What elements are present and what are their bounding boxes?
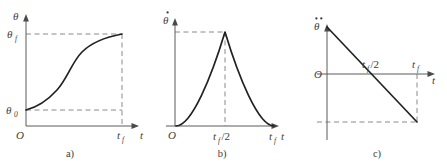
xtick-t-f-b: t f: [269, 130, 277, 145]
xtick-t-f-half-c: t f /2: [362, 58, 379, 73]
panel-a-svg: θ θ f θ 0 O t f t a): [0, 0, 150, 165]
x-axis-arrow-a: [132, 123, 140, 129]
panel-a-position-plot: θ θ f θ 0 O t f t a): [0, 0, 150, 165]
y-axis-arrow-b: [172, 18, 178, 26]
x-axis-label-b: t: [281, 130, 285, 142]
y-axis-label-b: θ: [163, 11, 169, 26]
y-axis-arrow-a: [23, 14, 29, 22]
accel-dot-accent-right-icon: [320, 17, 322, 19]
curve-theta-position: [26, 34, 122, 110]
xtick-t-f-symbol-a: t: [117, 129, 121, 141]
y-axis-label-c: θ: [314, 17, 322, 32]
y-axis-label-b-symbol: θ: [163, 14, 169, 26]
figure-root: θ θ f θ 0 O t f t a): [0, 0, 447, 165]
panel-c-svg: θ O t f /2 t f t c): [295, 0, 447, 165]
xtick-t-f-subscript-a: f: [122, 135, 125, 144]
caption-b: b): [218, 148, 227, 160]
ytick-theta-f: θ f: [7, 28, 18, 43]
caption-c: c): [373, 148, 382, 160]
x-axis-label-a: t: [140, 129, 144, 141]
xtick-t-f-subscript-b: f: [274, 136, 277, 145]
xtick-t-f-half-suffix-b: /2: [222, 130, 231, 142]
origin-label-b: O: [168, 129, 176, 141]
xtick-t-f-half-symbol-b: t: [213, 130, 217, 142]
x-axis-label-c: t: [432, 74, 436, 86]
xtick-t-f-symbol-b: t: [269, 130, 273, 142]
accel-dot-accent-left-icon: [315, 17, 317, 19]
panel-b-velocity-plot: θ O t f /2 t f t b): [150, 0, 295, 165]
ytick-theta-0-symbol: θ: [6, 104, 12, 116]
ytick-theta-f-symbol: θ: [7, 28, 13, 40]
xtick-t-f-a: t f: [117, 129, 125, 144]
xtick-t-f-subscript-c: f: [417, 64, 420, 73]
ytick-theta-0: θ 0: [6, 104, 18, 119]
xtick-t-f-c: t f: [412, 58, 420, 73]
xtick-t-f-symbol-c: t: [412, 58, 416, 70]
xtick-t-f-half-b: t f /2: [213, 130, 230, 145]
panel-c-acceleration-plot: θ O t f /2 t f t c): [295, 0, 447, 165]
ytick-theta-0-subscript: 0: [14, 110, 18, 119]
y-axis-label-c-symbol: θ: [314, 20, 320, 32]
y-axis-label-a: θ: [13, 10, 19, 22]
caption-a: a): [66, 148, 75, 160]
origin-label-a: O: [16, 129, 24, 141]
origin-label-c: O: [314, 68, 322, 80]
xtick-t-f-half-suffix-c: /2: [371, 58, 380, 70]
panel-b-svg: θ O t f /2 t f t b): [150, 0, 295, 165]
ytick-theta-f-subscript: f: [15, 34, 18, 43]
velocity-dot-accent-icon: [166, 11, 168, 13]
